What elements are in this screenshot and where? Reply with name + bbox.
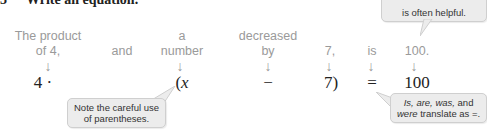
callout-text: translate as =. <box>418 108 481 119</box>
phrase-line: number <box>161 44 203 59</box>
phrase-line: by <box>239 44 297 59</box>
equation-term-4-times: 4 · <box>34 73 52 93</box>
phrase-line: of 4, <box>15 44 82 59</box>
phrase-line: The product <box>15 29 82 44</box>
callout-line: were translate as =. <box>397 108 480 119</box>
phrase-7: 7, <box>325 44 335 59</box>
down-arrow-icon: ↓ <box>45 59 52 73</box>
phrase-a-number: a number <box>161 29 203 59</box>
phrase-line: 7, <box>325 44 335 59</box>
phrase-product-of-4: The product of 4, <box>15 29 82 59</box>
down-arrow-icon: ↓ <box>265 59 272 73</box>
phrase-is: is <box>367 44 376 59</box>
phrase-line: decreased <box>239 29 297 44</box>
equation-term-equals: = <box>367 73 377 93</box>
callout-italic: were <box>397 108 418 119</box>
down-arrow-icon: ↓ <box>177 59 184 73</box>
phrase-decreased-by: decreased by <box>239 29 297 59</box>
equation-term-open-paren-x: (x <box>175 73 188 93</box>
phrase-line: a <box>161 29 203 44</box>
equation-term-100: 100 <box>404 73 430 93</box>
equation-term-7-close-paren: 7) <box>324 73 338 93</box>
phrase-and: and <box>112 44 133 59</box>
phrase-100: 100. <box>405 44 429 59</box>
callout-parentheses: Note the careful use of parentheses. <box>67 98 166 128</box>
phrase-line: is <box>367 44 376 59</box>
phrase-line: 100. <box>405 44 429 59</box>
down-arrow-icon: ↓ <box>411 59 418 73</box>
callout-translate: Is, are, was, and were translate as =. <box>390 93 487 123</box>
phrase-line: and <box>112 44 133 59</box>
callout-line: of parentheses. <box>74 113 159 124</box>
section-heading: 3Write an equation. <box>0 0 138 8</box>
down-arrow-icon: ↓ <box>368 59 375 73</box>
callout-helpful-tail <box>420 19 440 37</box>
callout-line: Note the careful use <box>74 102 159 113</box>
callout-line: Is, are, was, and <box>397 97 480 108</box>
heading-number: 3 <box>0 0 26 8</box>
heading-label: Write an equation. <box>26 0 138 7</box>
callout-italic: Is, are, was, <box>404 97 455 108</box>
callout-helpful-line2: is often helpful. <box>388 7 480 18</box>
equation-term-minus: − <box>263 73 273 93</box>
callout-helpful-line1 <box>388 0 480 7</box>
down-arrow-icon: ↓ <box>326 59 333 73</box>
callout-text: and <box>455 97 474 108</box>
